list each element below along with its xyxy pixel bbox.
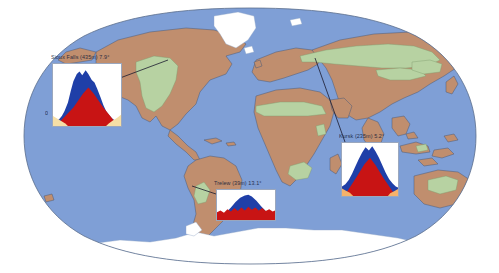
world-map xyxy=(0,0,499,273)
inset-label-kursk: Kursk (235m) 5.2° xyxy=(339,134,384,139)
inset-chart-kursk[interactable] xyxy=(341,142,399,197)
climate-chart-sioux-falls xyxy=(53,64,121,126)
world-climate-map-figure: Sioux Falls (435m) 7.9° 0 Trelew (39m) 1… xyxy=(0,0,499,273)
inset-chart-sioux-falls[interactable] xyxy=(52,63,122,127)
axis-zero-label-sioux-falls: 0 xyxy=(45,111,48,116)
inset-label-trelew: Trelew (39m) 13.1° xyxy=(214,181,262,186)
inset-chart-trelew[interactable] xyxy=(216,189,276,221)
climate-chart-kursk xyxy=(342,143,398,196)
inset-label-sioux-falls: Sioux Falls (435m) 7.9° xyxy=(51,55,109,60)
climate-chart-trelew xyxy=(217,190,275,220)
